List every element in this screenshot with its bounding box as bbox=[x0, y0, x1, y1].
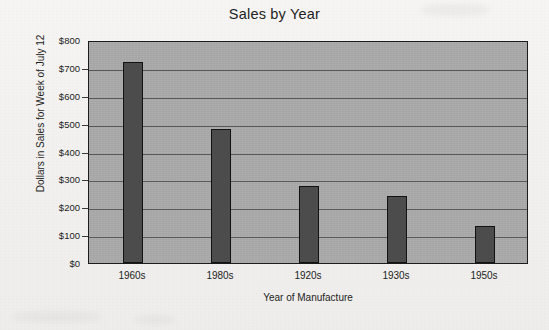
x-axis-tick-label: 1960s bbox=[92, 270, 172, 281]
y-axis-tick-label: $0 bbox=[44, 259, 80, 269]
y-axis-tick-label: $400 bbox=[44, 148, 80, 158]
gridline bbox=[89, 98, 527, 99]
gridline bbox=[89, 126, 527, 127]
gridline bbox=[89, 70, 527, 71]
y-axis-tick-label: $500 bbox=[44, 120, 80, 130]
plot-area bbox=[88, 41, 528, 264]
chart-title: Sales by Year bbox=[0, 6, 549, 22]
paper-smudge bbox=[135, 316, 175, 324]
x-axis-tick-label: 1980s bbox=[180, 270, 260, 281]
bar bbox=[299, 186, 319, 263]
x-axis-tick-label: 1950s bbox=[444, 270, 524, 281]
chart-page: Sales by Year Dollars in Sales for Week … bbox=[0, 0, 549, 330]
y-axis-tick-label: $100 bbox=[44, 231, 80, 241]
x-axis-title: Year of Manufacture bbox=[88, 292, 528, 303]
x-axis-tick-label: 1930s bbox=[356, 270, 436, 281]
bar bbox=[387, 196, 407, 263]
gridline bbox=[89, 181, 527, 182]
bar bbox=[123, 62, 143, 263]
bar bbox=[211, 129, 231, 263]
y-axis-tick-label: $200 bbox=[44, 203, 80, 213]
y-axis-tick-label: $600 bbox=[44, 92, 80, 102]
paper-smudge bbox=[12, 312, 102, 322]
y-axis-tick-label: $300 bbox=[44, 175, 80, 185]
y-axis-tick-label: $800 bbox=[44, 36, 80, 46]
y-axis-tick-label: $700 bbox=[44, 64, 80, 74]
gridline bbox=[89, 154, 527, 155]
bar bbox=[475, 226, 495, 263]
x-axis-tick-label: 1920s bbox=[268, 270, 348, 281]
